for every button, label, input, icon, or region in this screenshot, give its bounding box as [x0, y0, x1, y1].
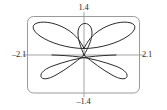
y-max-label: 1.4 [0, 3, 167, 12]
y-min-label: –1.4 [0, 97, 167, 106]
x-max-label: 2.1 [142, 50, 167, 59]
graph-screenshot: 1.4 –1.4 –2.1 2.1 [0, 0, 167, 110]
x-min-label: –2.1 [1, 50, 26, 59]
